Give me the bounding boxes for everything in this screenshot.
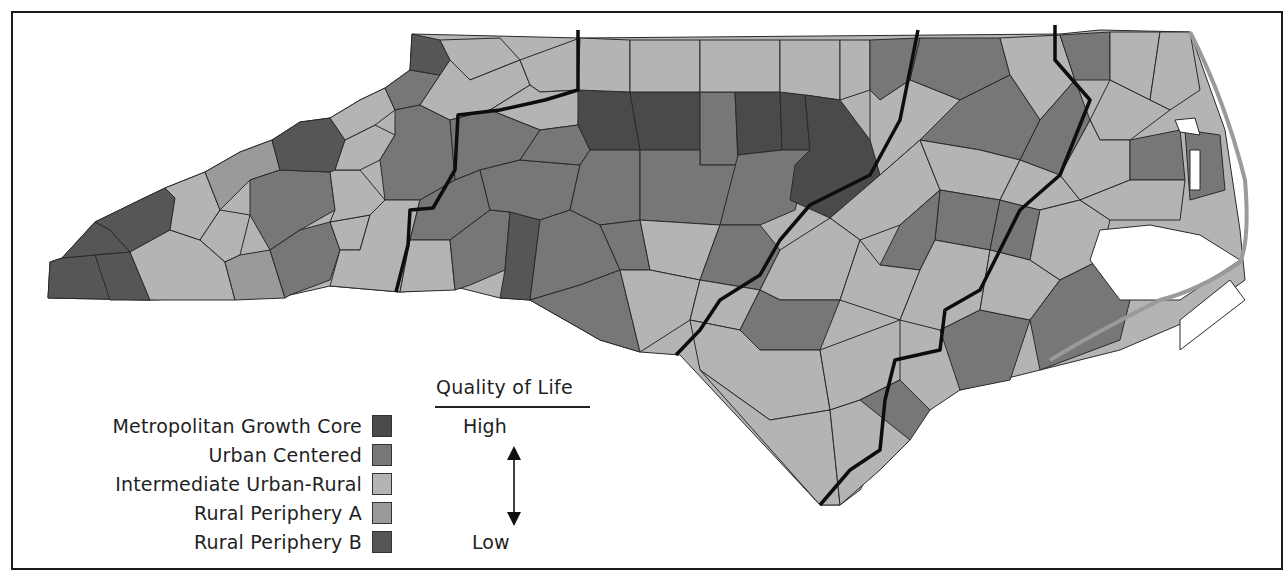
quality-of-life-underline bbox=[435, 406, 590, 408]
county-wayne bbox=[935, 190, 1000, 250]
legend-swatch bbox=[372, 502, 392, 524]
county-caswell-person bbox=[700, 40, 780, 92]
double-arrow-icon bbox=[504, 446, 524, 526]
county-guilford bbox=[630, 92, 700, 150]
legend-label: Rural Periphery A bbox=[194, 502, 362, 524]
legend-label: Intermediate Urban-Rural bbox=[115, 473, 362, 495]
county-madison bbox=[272, 118, 345, 172]
legend-item-rural-periphery-a: Rural Periphery A bbox=[194, 501, 392, 525]
county-stokes bbox=[578, 38, 630, 92]
legend-item-metropolitan-growth-core: Metropolitan Growth Core bbox=[112, 414, 392, 438]
county-granville bbox=[780, 40, 840, 100]
county-vance bbox=[840, 40, 870, 100]
quality-low-label: Low bbox=[472, 531, 509, 553]
legend: Metropolitan Growth Core Urban Centered … bbox=[60, 372, 620, 567]
legend-swatch bbox=[372, 415, 392, 437]
county-alamance bbox=[700, 92, 738, 165]
legend-label: Rural Periphery B bbox=[194, 531, 362, 553]
sound-water-1 bbox=[1190, 150, 1200, 190]
legend-label: Metropolitan Growth Core bbox=[112, 415, 362, 437]
legend-label: Urban Centered bbox=[208, 444, 362, 466]
quality-of-life-title: Quality of Life bbox=[436, 376, 573, 398]
county-rockingham bbox=[630, 40, 700, 92]
county-iredell bbox=[480, 160, 580, 220]
quality-high-label: High bbox=[463, 415, 507, 437]
legend-swatch bbox=[372, 531, 392, 553]
legend-swatch bbox=[372, 444, 392, 466]
legend-item-rural-periphery-b: Rural Periphery B bbox=[194, 530, 392, 554]
legend-item-intermediate-urban-rural: Intermediate Urban-Rural bbox=[115, 472, 392, 496]
legend-item-urban-centered: Urban Centered bbox=[208, 443, 392, 467]
legend-swatch bbox=[372, 473, 392, 495]
county-orange bbox=[735, 92, 782, 155]
